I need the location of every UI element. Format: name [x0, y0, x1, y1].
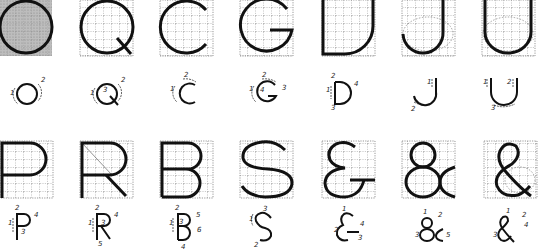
glyph-C-grid [160, 0, 213, 56]
svg-text:2: 2 [438, 211, 443, 219]
svg-text:1: 1 [427, 78, 431, 86]
stroke-order-Q: 1 2 3 [90, 76, 126, 105]
svg-text:1: 1 [326, 86, 330, 94]
svg-text:2: 2 [95, 204, 100, 212]
stroke-order-ampersand: 1 2 3 5 [415, 208, 451, 241]
svg-text:1: 1 [249, 85, 253, 93]
svg-text:4: 4 [260, 86, 264, 94]
svg-text:1: 1 [342, 205, 346, 213]
svg-text:3: 3 [331, 104, 335, 112]
glyph-B-grid [160, 141, 213, 198]
glyph-ampersand-italic-grid [484, 141, 537, 198]
svg-text:5: 5 [196, 211, 201, 219]
svg-text:1: 1 [8, 219, 12, 227]
svg-text:3: 3 [103, 86, 107, 94]
svg-text:4: 4 [360, 220, 364, 228]
svg-text:2: 2 [184, 71, 189, 79]
svg-text:4: 4 [34, 211, 38, 219]
svg-text:1: 1 [506, 207, 510, 215]
svg-text:2: 2 [507, 78, 512, 86]
glyph-Q-grid [80, 0, 133, 56]
svg-text:2: 2 [41, 76, 46, 84]
svg-text:2: 2 [262, 71, 267, 79]
glyph-P-grid [0, 141, 53, 198]
svg-text:2: 2 [411, 105, 416, 113]
svg-text:4: 4 [114, 211, 118, 219]
svg-text:1: 1 [169, 219, 173, 227]
svg-text:3: 3 [415, 231, 419, 239]
stroke-order-B: 1 2 3 4 5 6 [169, 204, 202, 251]
svg-text:2: 2 [331, 72, 336, 80]
svg-text:4: 4 [181, 243, 185, 251]
svg-text:4: 4 [524, 221, 528, 229]
svg-text:2: 2 [334, 226, 339, 234]
stroke-order-D: 1 2 3 4 [326, 72, 358, 112]
svg-text:3: 3 [491, 104, 495, 112]
svg-text:2: 2 [522, 211, 527, 219]
stroke-order-C: 1 2 [170, 71, 196, 104]
svg-text:3: 3 [179, 218, 183, 226]
lettering-plate: 1 2 1 2 3 1 2 1 2 3 4 1 2 3 4 1 [0, 0, 543, 251]
svg-text:1: 1 [88, 219, 92, 227]
svg-text:2: 2 [175, 204, 180, 212]
glyph-J-grid [402, 0, 455, 56]
glyph-G-grid [240, 0, 293, 56]
svg-text:3: 3 [358, 234, 362, 242]
svg-text:1: 1 [249, 215, 253, 223]
svg-text:1: 1 [423, 208, 427, 216]
svg-text:6: 6 [197, 226, 202, 234]
svg-text:3: 3 [282, 84, 286, 92]
stroke-order-U: 1 2 3 [483, 78, 517, 112]
stroke-order-epsilon-ampersand: 1 2 3 4 [334, 205, 364, 242]
svg-text:2: 2 [121, 76, 126, 84]
stroke-order-ampersand-italic: 1 2 3 4 [493, 207, 528, 242]
stroke-order-P: 1 2 3 4 [8, 204, 38, 240]
stroke-order-G: 1 2 3 4 [249, 71, 286, 102]
svg-text:3: 3 [101, 219, 105, 227]
glyph-ampersand-grid [402, 141, 455, 198]
svg-text:3: 3 [21, 228, 25, 236]
svg-text:4: 4 [354, 80, 358, 88]
svg-text:2: 2 [254, 241, 259, 249]
stroke-order-J: 1 2 [411, 78, 436, 113]
svg-text:1: 1 [170, 85, 174, 93]
stroke-order-R: 1 2 3 4 5 [88, 204, 118, 248]
glyph-R-grid [80, 141, 133, 198]
glyph-S-grid [240, 141, 293, 198]
svg-text:1: 1 [90, 89, 94, 97]
svg-text:2: 2 [15, 204, 20, 212]
svg-text:1: 1 [10, 89, 14, 97]
stroke-order-O: 1 2 [10, 76, 46, 104]
svg-text:5: 5 [446, 231, 451, 239]
glyph-O-grid [0, 0, 52, 56]
svg-text:5: 5 [98, 240, 103, 248]
glyph-D-grid [322, 0, 375, 56]
glyph-epsilon-ampersand-grid [322, 141, 375, 198]
svg-text:3: 3 [493, 231, 497, 239]
svg-text:1: 1 [483, 78, 487, 86]
glyph-U-grid [482, 0, 535, 56]
svg-text:3: 3 [263, 205, 267, 213]
stroke-order-S: 1 2 3 [249, 205, 271, 249]
